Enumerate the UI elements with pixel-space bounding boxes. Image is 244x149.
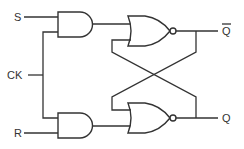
nor-gate-top xyxy=(128,16,170,46)
label-qbar: Q xyxy=(222,25,231,37)
wire-ck-bus xyxy=(43,32,58,118)
label-ck: CK xyxy=(7,69,23,81)
nor-gate-bottom xyxy=(128,103,170,133)
nor-bottom-bubble xyxy=(170,115,176,121)
sr-latch-diagram: S CK R Q Q xyxy=(0,0,244,149)
nor-top-bubble xyxy=(170,28,176,34)
label-s: S xyxy=(14,11,21,23)
label-r: R xyxy=(14,127,22,139)
label-q: Q xyxy=(222,112,231,124)
and-gate-bottom xyxy=(58,113,92,138)
and-gate-top xyxy=(58,12,92,37)
